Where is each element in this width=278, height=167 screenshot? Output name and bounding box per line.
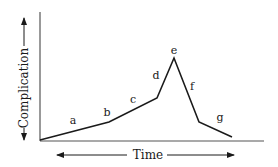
- segment-label-e: e: [171, 44, 178, 57]
- segment-label-f: f: [190, 80, 195, 93]
- segment-label-a: a: [70, 114, 77, 127]
- y-axis-title: Complication: [17, 47, 31, 128]
- x-axis-title: Time: [133, 148, 163, 162]
- segment-label-b: b: [103, 106, 110, 119]
- x-axis-title-group: Time: [57, 148, 234, 162]
- segment-label-d: d: [152, 69, 159, 82]
- segment-label-g: g: [216, 111, 223, 124]
- segment-labels: abcdefg: [70, 44, 224, 127]
- segment-label-c: c: [130, 93, 136, 106]
- y-axis-title-group: Complication: [17, 18, 31, 140]
- complication-time-diagram: Complication Time abcdefg: [0, 0, 278, 167]
